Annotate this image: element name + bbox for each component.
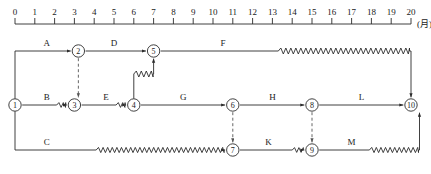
axis-tick-label: 19: [387, 7, 397, 17]
diagram-canvas: 01234567891011121314151617181920(月) 1234…: [0, 0, 431, 174]
axis-tick-label: 15: [308, 7, 318, 17]
activity-arrow-b: [22, 103, 66, 108]
activity-label-m: M: [348, 137, 356, 147]
axis-tick-label: 8: [171, 7, 176, 17]
axis-tick-label: 14: [288, 7, 298, 17]
event-nodes: 12345678910: [9, 45, 417, 156]
event-node-label: 6: [231, 101, 235, 110]
event-node-6: 6: [227, 99, 239, 111]
activity-e: [82, 103, 127, 108]
axis-tick-label: 0: [13, 7, 18, 17]
axis-tick-label: 6: [132, 7, 137, 17]
activity-arrow-m: [319, 113, 419, 153]
axis-tick-label: 12: [248, 7, 257, 17]
axis-tick-label: 5: [112, 7, 117, 17]
activity-label-c: C: [44, 137, 50, 147]
axis-unit-label: (月): [417, 19, 431, 29]
activity-arrow-k: [240, 148, 304, 153]
activity-label-d: D: [111, 38, 118, 48]
axis-tick-label: 13: [268, 7, 278, 17]
activity-label-l: L: [359, 92, 365, 102]
axis-tick-label: 4: [92, 7, 97, 17]
activity-arrow-e: [82, 103, 127, 108]
axis-tick-label: 1: [33, 7, 38, 17]
activity-label-a: A: [43, 38, 50, 48]
event-node-label: 10: [407, 101, 415, 110]
activity-label-g: G: [180, 92, 187, 102]
event-node-label: 3: [72, 101, 76, 110]
activity-arrow-4-to-5: [134, 59, 154, 99]
event-node-7: 7: [227, 144, 239, 156]
activity-label-k: K: [265, 137, 272, 147]
event-node-1: 1: [9, 99, 21, 111]
event-node-3: 3: [68, 99, 80, 111]
event-node-label: 2: [76, 47, 80, 56]
axis-tick-label: 2: [52, 7, 57, 17]
event-node-5: 5: [147, 45, 159, 57]
activity-arrow-f: [161, 48, 411, 97]
event-node-label: 4: [132, 101, 136, 110]
event-node-label: 9: [310, 146, 314, 155]
event-node-label: 1: [13, 101, 17, 110]
axis-tick-label: 11: [228, 7, 237, 17]
activity-f: [161, 48, 411, 97]
event-node-label: 8: [310, 101, 314, 110]
activity-label-b: B: [44, 92, 50, 102]
axis-tick-label: 20: [407, 7, 417, 17]
axis-tick-label: 18: [367, 7, 377, 17]
time-axis: 01234567891011121314151617181920(月): [13, 7, 431, 29]
activity-k: [240, 148, 304, 153]
axis-tick-label: 9: [191, 7, 196, 17]
event-node-9: 9: [306, 144, 318, 156]
activity-label-h: H: [269, 92, 276, 102]
activity-b: [22, 103, 66, 108]
activity-label-e: E: [103, 92, 109, 102]
axis-tick-label: 17: [347, 7, 357, 17]
network-diagram-figure: 01234567891011121314151617181920(月) 1234…: [0, 0, 431, 174]
event-node-10: 10: [405, 99, 417, 111]
axis-tick-label: 10: [209, 7, 219, 17]
event-node-4: 4: [128, 99, 140, 111]
event-node-label: 7: [231, 146, 235, 155]
axis-tick-label: 7: [151, 7, 156, 17]
activity-label-f: F: [220, 38, 225, 48]
event-node-label: 5: [152, 47, 156, 56]
activity-m: [319, 113, 419, 153]
event-node-2: 2: [72, 45, 84, 57]
axis-tick-label: 3: [72, 7, 77, 17]
axis-tick-label: 16: [327, 7, 337, 17]
event-node-8: 8: [306, 99, 318, 111]
activity-labels: ADFBEGHLCKM: [43, 38, 364, 147]
